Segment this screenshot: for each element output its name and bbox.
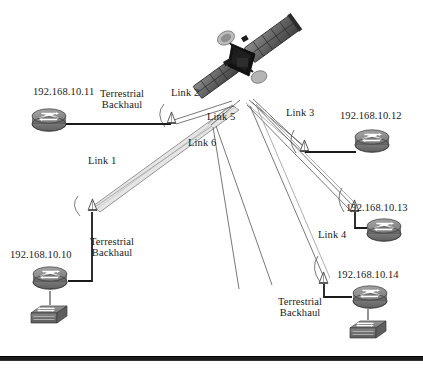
switch-site-10	[31, 306, 67, 323]
backhaul-label-bottom-right: Terrestrial Backhaul	[278, 296, 322, 319]
ip-label-192-168-10-12: 192.168.10.12	[340, 110, 402, 121]
router-192-168-10-11	[32, 109, 66, 131]
router-192-168-10-13	[367, 219, 401, 241]
link-label-link-2: Link 2	[171, 87, 199, 98]
link-label-link-1: Link 1	[88, 155, 116, 166]
router-192-168-10-10	[33, 267, 67, 289]
router-192-168-10-12	[355, 130, 389, 152]
ip-label-192-168-10-11: 192.168.10.11	[33, 86, 94, 97]
device-icons-layer	[0, 0, 423, 370]
ip-label-192-168-10-13: 192.168.10.13	[346, 202, 408, 213]
ip-label-192-168-10-14: 192.168.10.14	[337, 269, 399, 280]
link-label-link-6: Link 6	[188, 137, 216, 148]
link-label-link-4: Link 4	[318, 229, 346, 240]
router-192-168-10-14	[353, 286, 387, 308]
switch-site-14	[350, 321, 386, 338]
backhaul-label-top-left: Terrestrial Backhaul	[100, 88, 144, 111]
link-label-link-5: Link 5	[207, 111, 235, 122]
antenna-link14	[319, 272, 328, 283]
figure-bottom-rule	[0, 356, 423, 361]
antenna-link2	[167, 112, 176, 123]
antenna-link1	[88, 199, 97, 210]
backhaul-label-bottom-left: Terrestrial Backhaul	[90, 236, 134, 259]
antenna-link3	[300, 140, 309, 151]
network-diagram-figure: 192.168.10.11 192.168.10.12 192.168.10.1…	[0, 0, 423, 370]
satellite-icon	[193, 13, 302, 98]
ip-label-192-168-10-10: 192.168.10.10	[10, 249, 72, 260]
link-label-link-3: Link 3	[286, 107, 314, 118]
